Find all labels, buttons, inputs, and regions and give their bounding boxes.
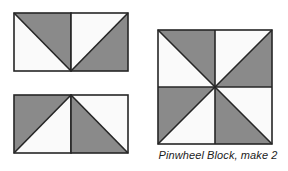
hst-square-bottom-right (71, 95, 128, 153)
half-square-triangle-row-top (13, 12, 129, 72)
hst-square-bottom-left (14, 95, 71, 153)
pinwheel-block (157, 29, 273, 145)
pinwheel-quadrant-top-right (215, 30, 272, 87)
pinwheel-quadrant-bottom-right (215, 87, 272, 144)
quilt-diagram-canvas: Pinwheel Block, make 2 (0, 0, 288, 171)
pinwheel-quadrant-top-left (158, 30, 215, 87)
pinwheel-quadrant-bottom-left (158, 87, 215, 144)
hst-square-top-right (71, 13, 128, 71)
hst-square-top-left (14, 13, 71, 71)
half-square-triangle-row-bottom (13, 94, 129, 154)
pinwheel-block-caption: Pinwheel Block, make 2 (150, 149, 286, 161)
